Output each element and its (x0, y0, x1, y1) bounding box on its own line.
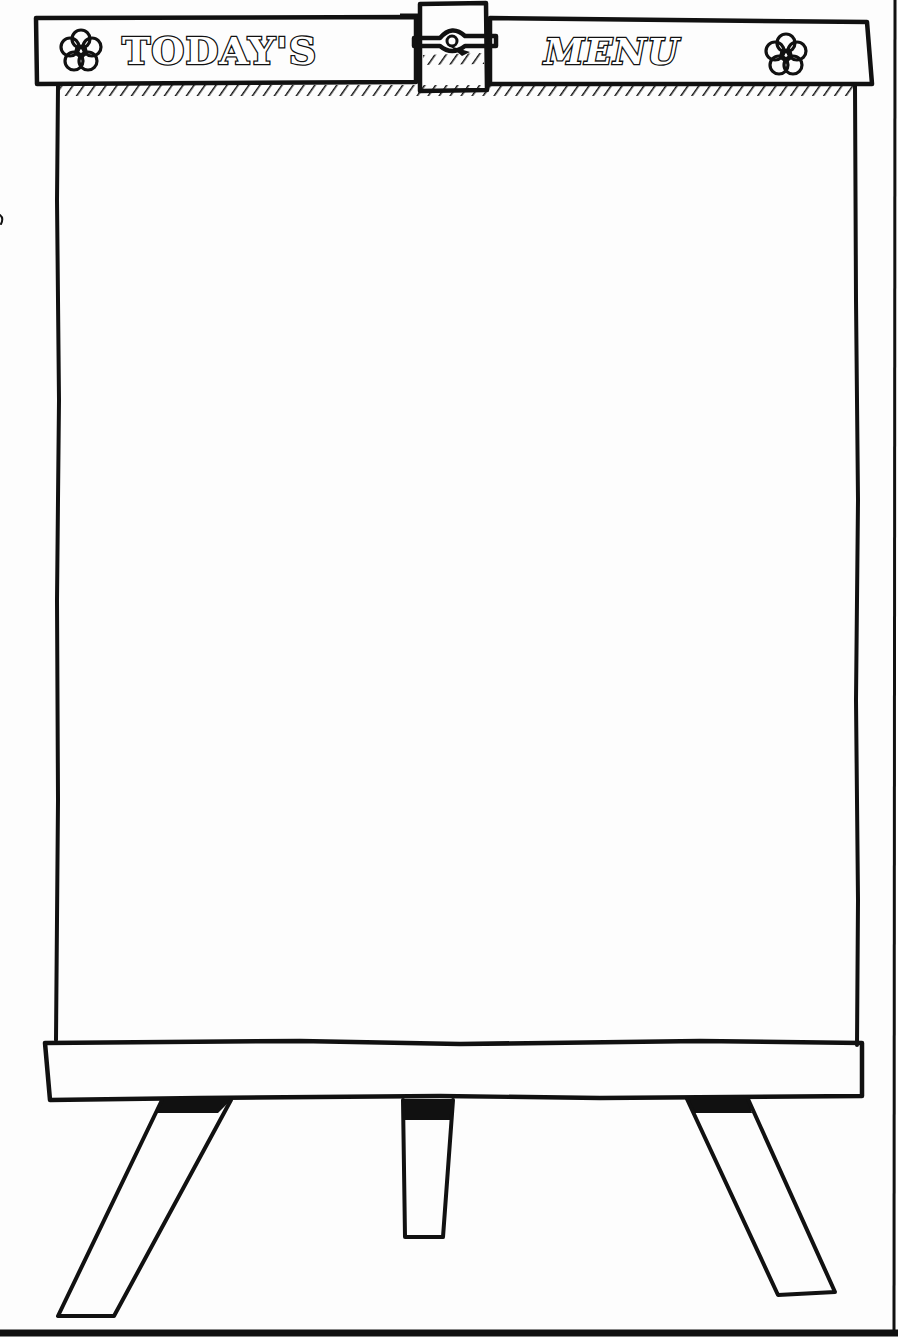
margin-mark (0, 215, 2, 224)
page-edge-right (894, 0, 895, 1332)
binder-clip-icon (414, 3, 496, 91)
easel-leg-left (58, 1099, 232, 1316)
header-title-left: TODAY'S (122, 28, 317, 73)
flower-icon (766, 34, 806, 74)
menu-board-blank-area (58, 88, 856, 1040)
header-title-right: MENU (542, 30, 681, 72)
menu-easel-illustration: TODAY'S MENU (0, 0, 898, 1337)
easel-leg-right (686, 1098, 835, 1295)
flower-icon (61, 30, 101, 70)
easel-ledge (45, 1041, 862, 1100)
easel-leg-center (402, 1099, 454, 1237)
